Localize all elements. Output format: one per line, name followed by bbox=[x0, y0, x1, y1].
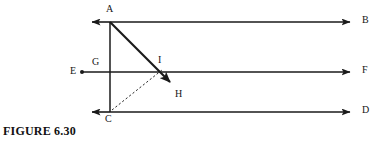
point-label-i: I bbox=[158, 55, 161, 65]
point-label-d: D bbox=[362, 105, 369, 115]
point-label-c: C bbox=[105, 114, 112, 124]
point-label-h: H bbox=[175, 89, 182, 99]
point-e-dot bbox=[80, 70, 84, 74]
point-label-g: G bbox=[92, 57, 99, 67]
incident-ray-a-to-h bbox=[110, 22, 170, 82]
point-label-a: A bbox=[106, 4, 113, 14]
figure-6-30-container: A B C D E F G H I FIGURE 6.30 bbox=[0, 0, 388, 144]
point-label-b: B bbox=[362, 15, 369, 25]
point-label-f: F bbox=[362, 65, 368, 75]
point-label-e: E bbox=[70, 66, 76, 76]
ray-diagram bbox=[0, 0, 388, 144]
dashed-line-c-to-i bbox=[112, 70, 162, 110]
figure-caption: FIGURE 6.30 bbox=[3, 124, 76, 139]
